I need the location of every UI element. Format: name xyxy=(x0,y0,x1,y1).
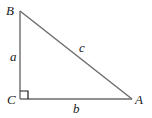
vertex-label-b: B xyxy=(6,3,14,18)
vertex-label-a: A xyxy=(134,92,143,107)
side-label-a: a xyxy=(10,49,17,64)
side-label-b: b xyxy=(73,101,80,116)
right-triangle-diagram: B C A a b c xyxy=(0,0,152,118)
vertex-label-c: C xyxy=(7,92,16,107)
side-label-c: c xyxy=(79,40,85,55)
right-angle-marker xyxy=(20,91,28,99)
side-c xyxy=(20,11,132,99)
